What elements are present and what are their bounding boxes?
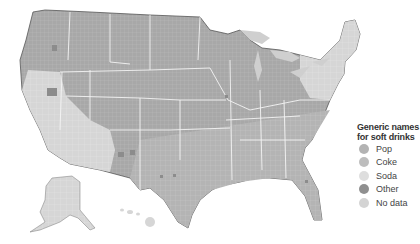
legend-item-no-data: No data bbox=[357, 196, 420, 210]
soda-swatch-icon bbox=[359, 171, 369, 181]
pop-swatch-icon bbox=[359, 144, 369, 154]
legend: Generic names for soft drinks Pop Coke S… bbox=[357, 122, 420, 210]
coke-swatch-icon bbox=[359, 157, 369, 167]
other-swatch-icon bbox=[359, 184, 369, 194]
no-data-swatch-icon bbox=[359, 198, 369, 208]
region-soda-northeast bbox=[300, 20, 360, 100]
legend-title: Generic names for soft drinks bbox=[357, 122, 420, 142]
legend-item-coke: Coke bbox=[357, 156, 420, 170]
legend-item-soda: Soda bbox=[357, 169, 420, 183]
legend-item-pop: Pop bbox=[357, 142, 420, 156]
hawaii bbox=[120, 209, 155, 228]
legend-item-other: Other bbox=[357, 183, 420, 197]
alaska bbox=[30, 176, 95, 232]
